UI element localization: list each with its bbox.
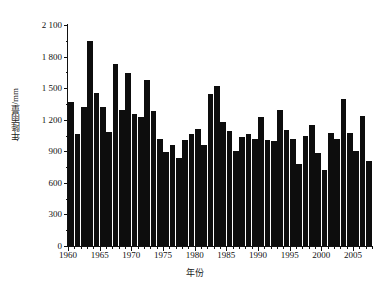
x-axis-minor-tick — [233, 246, 234, 249]
bar — [277, 110, 283, 246]
x-axis-minor-tick — [112, 246, 113, 249]
bar — [220, 122, 226, 246]
bar — [100, 107, 106, 246]
x-axis-minor-tick — [138, 246, 139, 249]
bar — [271, 141, 277, 246]
x-axis-minor-tick — [328, 246, 329, 249]
bar — [252, 139, 258, 246]
x-axis-tick-label: 1970 — [122, 250, 140, 260]
x-axis-minor-tick — [169, 246, 170, 249]
bar — [290, 139, 296, 246]
x-axis-minor-tick — [296, 246, 297, 249]
bar — [227, 131, 233, 246]
plot-area — [68, 25, 372, 246]
bar — [189, 134, 195, 246]
x-axis-minor-tick — [220, 246, 221, 249]
bar — [182, 140, 188, 246]
bar — [87, 41, 93, 246]
y-axis-tick-label: 1 500 — [42, 83, 62, 93]
rainfall-bar-chart: 年降雨量/mm 03006009001 2001 5001 8002 100 1… — [0, 0, 389, 295]
x-axis-minor-tick — [119, 246, 120, 249]
bar — [113, 64, 119, 246]
x-axis-title: 年份 — [0, 266, 389, 279]
x-axis-minor-tick — [372, 246, 373, 249]
bar — [303, 136, 309, 247]
bar — [201, 145, 207, 246]
bar — [246, 134, 252, 246]
x-axis-minor-tick — [176, 246, 177, 249]
bar — [265, 140, 271, 246]
x-axis-minor-tick — [150, 246, 151, 249]
x-axis-minor-tick — [271, 246, 272, 249]
bar — [296, 164, 302, 246]
x-axis-minor-tick — [81, 246, 82, 249]
bar — [81, 107, 87, 246]
x-axis-minor-tick — [239, 246, 240, 249]
bar — [309, 125, 315, 246]
x-axis-minor-tick — [125, 246, 126, 249]
bar — [239, 137, 245, 246]
x-axis-minor-tick — [302, 246, 303, 249]
bar — [138, 117, 144, 246]
x-axis-minor-tick — [106, 246, 107, 249]
tick-mark — [64, 25, 68, 26]
bar — [163, 152, 169, 246]
x-axis-minor-tick — [245, 246, 246, 249]
bar — [157, 139, 163, 246]
bar — [144, 80, 150, 246]
x-axis-minor-tick — [309, 246, 310, 249]
bar — [132, 114, 138, 246]
tick-mark — [66, 72, 69, 73]
bar — [322, 170, 328, 246]
x-axis-tick-label: 1980 — [186, 250, 204, 260]
y-axis-tick-label: 900 — [49, 146, 63, 156]
bar — [125, 73, 131, 246]
tick-mark — [64, 57, 68, 58]
tick-mark — [66, 41, 69, 42]
x-axis-minor-tick — [207, 246, 208, 249]
bar — [151, 111, 157, 246]
x-axis-minor-tick — [340, 246, 341, 249]
x-axis-minor-tick — [74, 246, 75, 249]
bar — [75, 134, 81, 246]
y-axis-tick-label: 1 200 — [42, 115, 62, 125]
x-axis-minor-tick — [264, 246, 265, 249]
x-axis-minor-tick — [182, 246, 183, 249]
x-axis-minor-tick — [188, 246, 189, 249]
x-axis-minor-tick — [334, 246, 335, 249]
bar — [347, 133, 353, 246]
x-axis-minor-tick — [93, 246, 94, 249]
x-axis-tick-label: 1985 — [217, 250, 235, 260]
x-axis-minor-tick — [359, 246, 360, 249]
x-axis-minor-tick — [277, 246, 278, 249]
x-axis-minor-tick — [144, 246, 145, 249]
x-axis-minor-tick — [214, 246, 215, 249]
y-axis-tick-label: 1 800 — [42, 52, 62, 62]
y-axis-tick-label: 300 — [49, 209, 63, 219]
bar — [68, 102, 74, 246]
bar — [119, 110, 125, 246]
bar — [284, 130, 290, 246]
bar — [208, 94, 214, 246]
bar — [176, 158, 182, 246]
bar — [360, 116, 366, 246]
bar — [195, 129, 201, 246]
bar — [106, 132, 112, 246]
x-axis-minor-tick — [201, 246, 202, 249]
bar — [341, 99, 347, 246]
tick-mark — [64, 88, 68, 89]
x-axis-tick-label: 1960 — [59, 250, 77, 260]
x-axis-tick-label: 1990 — [249, 250, 267, 260]
x-axis-tick-label: 2005 — [344, 250, 362, 260]
bar — [94, 93, 100, 246]
bar — [328, 133, 334, 246]
x-axis-minor-tick — [283, 246, 284, 249]
x-axis-tick-label: 1995 — [281, 250, 299, 260]
y-axis-title: 年降雨量/mm — [10, 88, 24, 141]
bar — [233, 151, 239, 246]
x-axis-minor-tick — [315, 246, 316, 249]
x-axis-minor-tick — [366, 246, 367, 249]
bar — [214, 86, 220, 246]
x-axis-minor-tick — [87, 246, 88, 249]
x-axis-minor-tick — [252, 246, 253, 249]
